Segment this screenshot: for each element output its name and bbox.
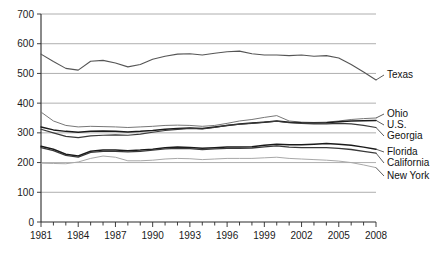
leader-line-texas xyxy=(376,75,384,80)
y-tick-label-500: 500 xyxy=(17,68,34,79)
series-label-u-s-: U.S. xyxy=(387,119,406,130)
leader-line-ohio xyxy=(376,114,384,118)
series-label-texas: Texas xyxy=(387,69,413,80)
x-tick-label-1993: 1993 xyxy=(179,230,202,241)
x-tick-label-1996: 1996 xyxy=(216,230,239,241)
leader-line-florida xyxy=(376,149,384,152)
y-axis-ticks-group xyxy=(37,14,41,222)
line-chart-figure: 0100200300400500600700 19811984198719901… xyxy=(0,0,441,266)
x-tick-label-2008: 2008 xyxy=(365,230,388,241)
y-tick-label-100: 100 xyxy=(17,187,34,198)
chart-canvas: 0100200300400500600700 19811984198719901… xyxy=(0,0,441,266)
x-tick-label-1984: 1984 xyxy=(67,230,90,241)
series-label-ohio: Ohio xyxy=(387,108,409,119)
series-line-texas xyxy=(41,51,376,80)
y-axis-labels-group: 0100200300400500600700 xyxy=(17,9,34,228)
leader-line-new-york xyxy=(376,168,384,176)
y-tick-label-400: 400 xyxy=(17,98,34,109)
series-line-georgia xyxy=(41,121,376,137)
series-line-new-york xyxy=(41,156,376,168)
x-tick-label-1990: 1990 xyxy=(142,230,165,241)
x-tick-label-1981: 1981 xyxy=(30,230,53,241)
x-axis-ticks-group xyxy=(41,222,376,227)
y-tick-label-700: 700 xyxy=(17,9,34,20)
y-tick-label-200: 200 xyxy=(17,157,34,168)
leader-line-georgia xyxy=(376,128,384,136)
x-axis-labels-group: 1981198419871990199319961999200220052008 xyxy=(30,230,388,241)
leader-line-u-s- xyxy=(376,120,384,125)
series-label-florida: Florida xyxy=(387,146,418,157)
series-line-ohio xyxy=(41,112,376,127)
series-label-georgia: Georgia xyxy=(387,130,423,141)
y-tick-label-300: 300 xyxy=(17,127,34,138)
series-labels-group: TexasOhioU.S.GeorgiaFloridaCaliforniaNew… xyxy=(376,69,430,181)
x-tick-label-1987: 1987 xyxy=(104,230,127,241)
series-label-california: California xyxy=(387,157,430,168)
axes-group xyxy=(41,14,376,222)
leader-line-california xyxy=(376,153,384,163)
x-tick-label-1999: 1999 xyxy=(253,230,276,241)
y-tick-label-600: 600 xyxy=(17,38,34,49)
gridlines-group xyxy=(41,14,376,192)
data-series-group xyxy=(41,51,376,167)
series-label-new-york: New York xyxy=(387,170,430,181)
y-tick-label-0: 0 xyxy=(28,217,34,228)
x-tick-label-2005: 2005 xyxy=(328,230,351,241)
x-tick-label-2002: 2002 xyxy=(290,230,313,241)
